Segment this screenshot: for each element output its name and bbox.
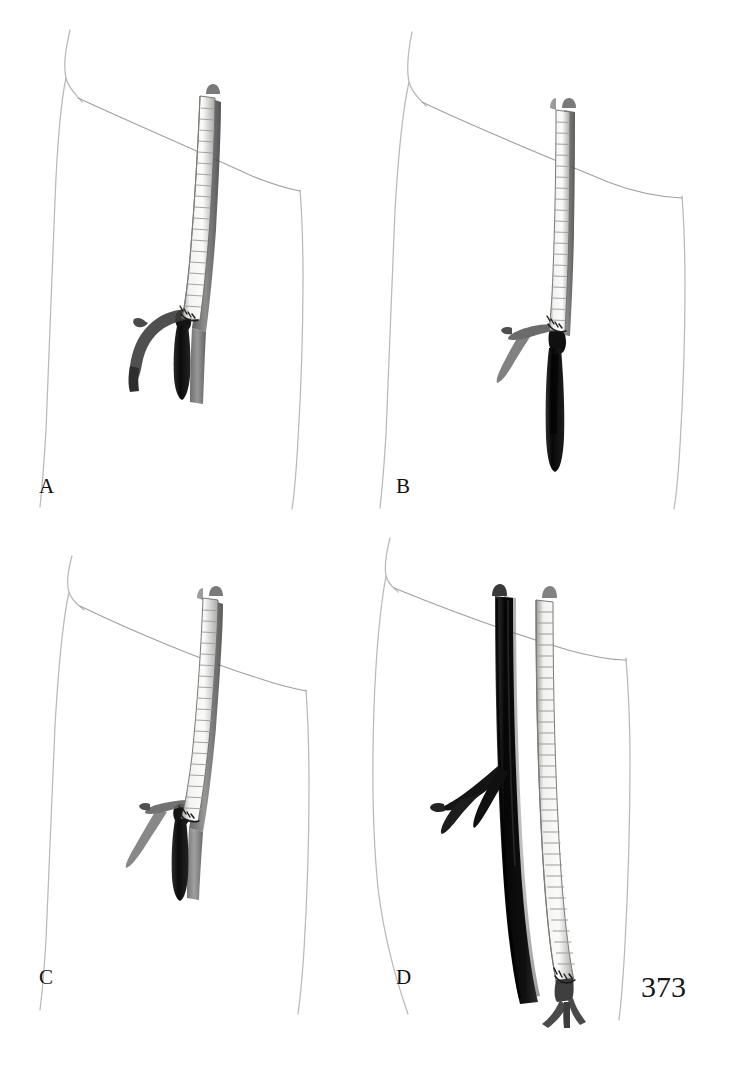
panel-label-a: A xyxy=(39,476,55,497)
panel-b-illustration xyxy=(364,10,728,510)
panel-b xyxy=(364,10,728,510)
panel-label-d: D xyxy=(396,967,412,988)
inguinal-ligament-line-a xyxy=(78,98,300,191)
page-number: 373 xyxy=(641,972,686,1002)
panel-a-illustration xyxy=(0,10,364,510)
panel-d xyxy=(364,528,728,1028)
panel-a xyxy=(0,10,364,510)
panel-c xyxy=(0,528,364,1028)
graft-proximal-tunnel-c xyxy=(197,586,223,600)
ringed-graft-d xyxy=(536,600,575,984)
figure-page: A B C D 373 xyxy=(0,0,729,1074)
panel-label-c: C xyxy=(39,967,54,988)
distal-anastomosis-d xyxy=(542,978,586,1028)
body-outline-c xyxy=(40,556,309,1014)
ringed-graft-c xyxy=(181,598,218,822)
native-artery-dark-b xyxy=(546,329,566,472)
panel-c-illustration xyxy=(0,528,364,1028)
graft-proximal-tunnel-d xyxy=(492,584,557,598)
graft-proximal-tunnel-b xyxy=(550,98,576,110)
inguinal-ligament-line-b xyxy=(422,102,682,198)
body-outline-a xyxy=(40,30,303,509)
graft-proximal-tunnel-a xyxy=(206,84,220,94)
ringed-graft-b xyxy=(549,110,570,332)
occluded-artery-stump-a xyxy=(174,310,192,400)
branch-bifurcation-d xyxy=(430,766,509,834)
panel-d-illustration xyxy=(364,528,728,1028)
inguinal-ligament-line-c xyxy=(80,606,306,691)
panel-label-b: B xyxy=(396,476,411,497)
native-artery-dark-d xyxy=(495,596,538,1004)
